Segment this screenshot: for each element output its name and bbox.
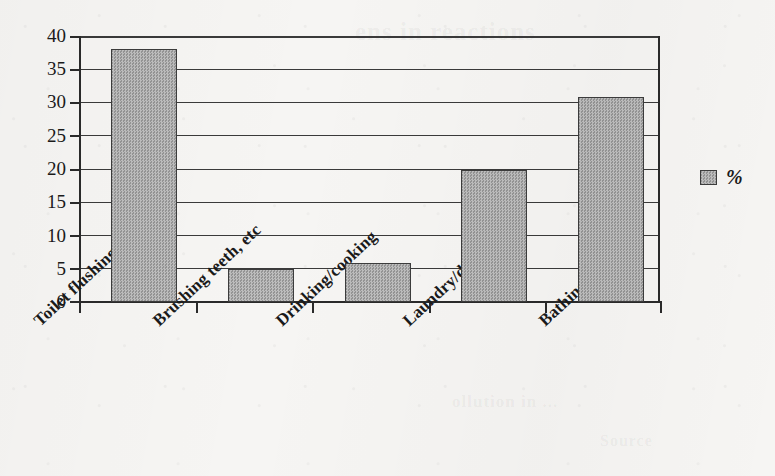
bar-chart: 40 35 30 25 20 15 10 5 0 xyxy=(0,0,775,476)
bar-toilet-flushing[interactable] xyxy=(111,49,177,302)
bar-bathing[interactable] xyxy=(578,97,644,302)
y-tick-mark-25 xyxy=(70,135,79,137)
plot-area xyxy=(79,36,660,302)
y-tick-mark-40 xyxy=(70,36,79,38)
y-tick-mark-20 xyxy=(70,169,79,171)
x-tick-1 xyxy=(196,302,198,313)
y-tick-label-25: 25 xyxy=(28,126,66,145)
gridline-40 xyxy=(81,36,658,38)
legend: % xyxy=(700,166,743,189)
bar-drinking-cooking[interactable] xyxy=(345,263,411,302)
y-tick-label-35: 35 xyxy=(28,59,66,78)
x-tick-5 xyxy=(660,302,662,313)
bar-laundry-dishes[interactable] xyxy=(461,170,527,302)
bar-brushing-teeth[interactable] xyxy=(228,269,294,302)
legend-label-percent: % xyxy=(726,166,743,189)
y-tick-label-30: 30 xyxy=(28,92,66,111)
y-tick-label-5: 5 xyxy=(28,259,66,278)
y-tick-mark-30 xyxy=(70,102,79,104)
y-tick-mark-35 xyxy=(70,69,79,71)
x-tick-0 xyxy=(79,302,81,313)
y-tick-label-10: 10 xyxy=(28,226,66,245)
y-tick-label-20: 20 xyxy=(28,159,66,178)
percent-series-swatch-icon xyxy=(700,170,717,185)
y-axis-labels: 40 35 30 25 20 15 10 5 0 xyxy=(26,36,66,302)
y-tick-label-15: 15 xyxy=(28,192,66,211)
y-tick-mark-15 xyxy=(70,202,79,204)
y-tick-mark-10 xyxy=(70,235,79,237)
y-tick-label-40: 40 xyxy=(28,26,66,45)
